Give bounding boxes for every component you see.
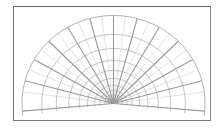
- radial-ray: [114, 19, 138, 104]
- radial-ray: [114, 81, 202, 104]
- radial-lines: [22, 16, 204, 112]
- polar-grid: [0, 0, 222, 129]
- radial-ray: [25, 81, 113, 104]
- radial-ray: [90, 19, 114, 104]
- radial-ray: [22, 104, 113, 112]
- radial-ray: [114, 104, 205, 112]
